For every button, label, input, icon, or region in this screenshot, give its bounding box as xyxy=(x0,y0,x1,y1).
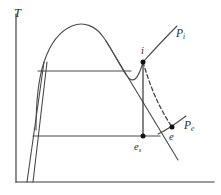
state-label-i: i xyxy=(141,46,144,57)
isobar-pe-label-base: P xyxy=(184,119,191,131)
ts-diagram-figure: T Pi Pe i e es xyxy=(0,0,221,195)
isobar-pe-label-sub: e xyxy=(191,124,194,133)
state-point-e xyxy=(170,125,175,130)
y-axis-label-T: T xyxy=(14,7,21,20)
state-label-es-base: e xyxy=(134,141,139,152)
state-point-i xyxy=(141,60,146,65)
isobar-pe-label: Pe xyxy=(184,120,194,132)
state-label-es-sub: s xyxy=(139,146,142,153)
actual-expansion-dashed-curve xyxy=(143,62,172,127)
state-point-es xyxy=(141,134,146,139)
ts-diagram-canvas xyxy=(0,0,221,195)
vapor-dome-curve xyxy=(36,24,143,130)
isobar-pi-label-base: P xyxy=(176,27,183,39)
saturated-vapor-extension-line xyxy=(106,41,178,160)
isobar-pi-superheat-curve xyxy=(143,26,177,62)
state-label-es: es xyxy=(134,142,141,153)
isobar-pi-label-sub: i xyxy=(183,32,185,41)
state-label-e: e xyxy=(169,132,174,143)
isobar-pi-label: Pi xyxy=(176,28,185,40)
